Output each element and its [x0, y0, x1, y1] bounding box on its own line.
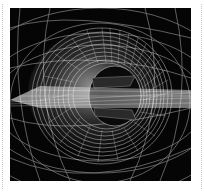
right-dotted-rule — [201, 4, 202, 189]
wireframe-artwork-image — [10, 8, 191, 181]
wireframe-torus-graphic — [10, 8, 191, 181]
left-dotted-rule — [2, 4, 3, 189]
